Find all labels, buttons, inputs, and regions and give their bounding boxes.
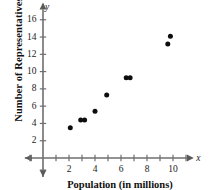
plot-canvas: 246810246810121416 xy — [0, 0, 216, 190]
y-tick-label: 14 — [27, 32, 37, 42]
data-points-group — [68, 34, 173, 131]
x-tick-label: 6 — [119, 164, 124, 174]
data-point — [168, 34, 173, 39]
x-axis-symbol: x — [195, 153, 201, 163]
axes-group — [25, 2, 194, 177]
y-axis-title: Number of Representatives — [13, 0, 24, 130]
data-point — [68, 125, 73, 130]
x-axis-arrow-left — [25, 155, 32, 162]
y-tick-label: 12 — [27, 49, 37, 59]
y-axis-arrow-down — [40, 170, 47, 177]
x-axis-arrow-right — [187, 155, 194, 162]
y-tick-label: 16 — [27, 14, 37, 24]
x-tick-label: 4 — [93, 164, 98, 174]
data-point — [82, 117, 87, 122]
data-point — [165, 41, 170, 46]
y-tick-label: 10 — [27, 66, 37, 76]
x-tick-label: 8 — [145, 164, 150, 174]
axis-symbols-group: xy — [44, 2, 201, 162]
y-tick-label: 4 — [32, 118, 37, 128]
data-point — [128, 75, 133, 80]
y-tick-label: 2 — [32, 135, 37, 145]
tick-labels-group: 246810246810121416 — [27, 14, 178, 173]
x-axis-title: Population (in millions) — [40, 179, 200, 190]
y-tick-label: 8 — [32, 83, 37, 93]
x-tick-label: 10 — [168, 164, 178, 174]
scatter-plot-figure: 246810246810121416 xy Number of Represen… — [0, 0, 216, 190]
y-axis-symbol: y — [44, 2, 50, 12]
data-point — [104, 92, 109, 97]
data-point — [93, 109, 98, 114]
y-tick-label: 6 — [32, 101, 37, 111]
x-tick-label: 2 — [67, 164, 72, 174]
